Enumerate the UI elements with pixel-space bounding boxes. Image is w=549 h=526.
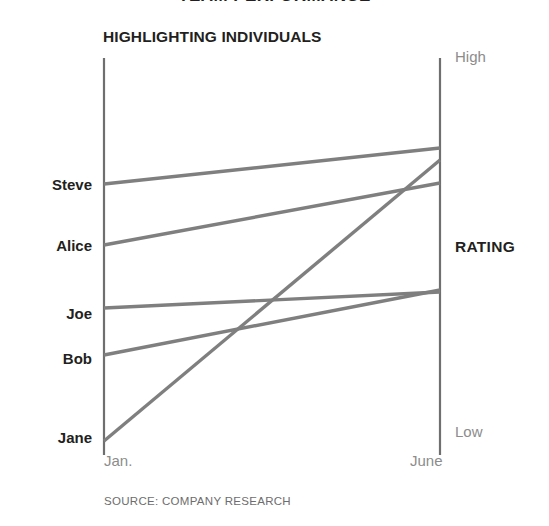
scale-label-high: High (455, 48, 486, 65)
series-line-alice (104, 183, 440, 245)
y-axis-title: RATING (455, 238, 515, 256)
series-label-joe: Joe (66, 305, 92, 322)
series-label-bob: Bob (63, 350, 92, 367)
chart-container: TEAM PERFORMANCE HIGHLIGHTING INDIVIDUAL… (0, 0, 549, 526)
series-label-alice: Alice (56, 237, 92, 254)
series-label-jane: Jane (58, 429, 92, 446)
series-line-steve (104, 148, 440, 184)
scale-label-low: Low (455, 423, 483, 440)
series-lines-group (104, 148, 440, 441)
x-tick-jan: Jan. (104, 452, 132, 469)
series-label-steve: Steve (52, 176, 92, 193)
axes-group (104, 58, 440, 455)
source-note: SOURCE: COMPANY RESEARCH (104, 495, 291, 507)
x-tick-june: June (410, 452, 443, 469)
slope-chart-plot (0, 0, 549, 526)
